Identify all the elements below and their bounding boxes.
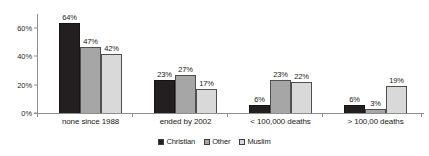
y-tick-label: 40% <box>17 52 32 61</box>
legend-label: Other <box>212 137 230 146</box>
y-tick-mark <box>34 28 37 29</box>
bar-value-label: 42% <box>104 44 118 53</box>
legend-label: Christian <box>166 137 195 146</box>
bar-column: 23% <box>154 14 175 113</box>
y-tick-mark <box>34 56 37 57</box>
bar-value-label: 6% <box>349 95 359 104</box>
bar-value-label: 27% <box>178 65 192 74</box>
bar-group: 64%47%42% <box>59 14 122 113</box>
x-axis-line <box>34 113 424 114</box>
bar-column: 6% <box>249 14 270 113</box>
bar <box>175 75 196 113</box>
bar <box>386 86 407 113</box>
bar <box>154 80 175 113</box>
y-tick-mark <box>34 84 37 85</box>
chart-legend: ChristianOtherMuslim <box>0 137 429 146</box>
legend-swatch <box>239 139 245 145</box>
bar-column: 17% <box>196 14 217 113</box>
bar-value-label: 64% <box>62 13 76 22</box>
bar-column: 19% <box>386 14 407 113</box>
legend-item: Christian <box>158 137 195 146</box>
y-tick-label: 20% <box>17 80 32 89</box>
bar-group: 6%23%22% <box>249 14 312 113</box>
bar-value-label: 17% <box>199 79 213 88</box>
bar-column: 42% <box>101 14 122 113</box>
bar-column: 22% <box>291 14 312 113</box>
bar <box>101 54 122 113</box>
bar <box>291 82 312 113</box>
bar-value-label: 22% <box>294 72 308 81</box>
bar-column: 23% <box>270 14 291 113</box>
bar-column: 64% <box>59 14 80 113</box>
bar-column: 6% <box>344 14 365 113</box>
bar-value-label: 47% <box>83 37 97 46</box>
bar-group: 6%3%19% <box>344 14 407 113</box>
bar <box>249 105 270 113</box>
bar <box>270 80 291 113</box>
legend-item: Other <box>204 137 230 146</box>
legend-item: Muslim <box>239 137 270 146</box>
legend-swatch <box>158 139 164 145</box>
bar-value-label: 23% <box>157 70 171 79</box>
bar-value-label: 3% <box>370 99 380 108</box>
bar <box>59 23 80 114</box>
bar-column: 3% <box>365 14 386 113</box>
bar-chart: 0%20%40%60% 64%47%42%23%27%17%6%23%22%6%… <box>0 0 429 156</box>
x-category-label: > 100,00 deaths <box>316 117 429 126</box>
legend-label: Muslim <box>247 137 270 146</box>
bar <box>365 109 386 113</box>
plot-area: 0%20%40%60% 64%47%42%23%27%17%6%23%22%6%… <box>37 14 422 113</box>
legend-swatch <box>204 139 210 145</box>
bar-value-label: 6% <box>254 95 264 104</box>
y-tick-label: 60% <box>17 24 32 33</box>
bar-value-label: 19% <box>389 76 403 85</box>
bar-value-label: 23% <box>273 70 287 79</box>
bar-group: 23%27%17% <box>154 14 217 113</box>
bar-column: 27% <box>175 14 196 113</box>
bar <box>196 89 217 113</box>
bar <box>344 105 365 113</box>
bar-column: 47% <box>80 14 101 113</box>
bar <box>80 47 101 113</box>
